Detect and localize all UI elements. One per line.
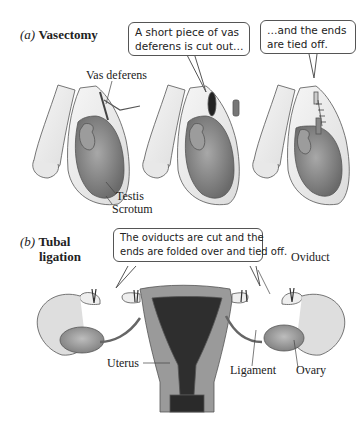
label-testis: Testis [116,189,144,203]
callout-oviducts-line2: ends are folded over and tied off. [120,245,256,259]
callout-tails-b [116,266,260,288]
panel-b-label: (b) Tubal ligation [20,234,81,264]
callout-oviducts: The oviducts are cut and the ends are fo… [113,228,263,262]
label-scrotum: Scrotum [112,202,153,216]
callout-tied-off-line1: …and the ends [267,23,349,37]
callout-tied-off-line2: are tied off. [267,37,349,51]
panel-b-title-line2: ligation [39,249,81,264]
vasectomy-drawing-3 [253,85,350,205]
panel-a-title: Vasectomy [38,27,97,42]
tubal-ligation-drawing [37,285,345,412]
callout-cut-out: A short piece of vas deferens is cut out… [128,22,250,56]
callout-cut-out-line1: A short piece of vas [135,25,243,39]
label-ligament: Ligament [230,363,276,377]
label-vas-deferens: Vas deferens [86,68,147,82]
panel-b-letter: (b) [20,234,35,249]
contraception-diagram: (a) Vasectomy A short piece of vas defer… [0,0,362,428]
label-uterus: Uterus [107,356,139,370]
callout-tied-off: …and the ends are tied off. [260,20,356,54]
panel-a-label: (a) Vasectomy [20,27,98,42]
label-oviduct: Oviduct [291,250,330,264]
callout-oviducts-line1: The oviducts are cut and the [120,231,256,245]
vasectomy-drawing-1 [33,85,140,205]
panel-a-letter: (a) [20,27,35,42]
label-ovary: Ovary [296,363,326,377]
callout-cut-out-line2: deferens is cut out… [135,39,243,53]
vasectomy-drawing-2 [143,85,240,205]
panel-b-title-line1: Tubal [38,234,70,249]
